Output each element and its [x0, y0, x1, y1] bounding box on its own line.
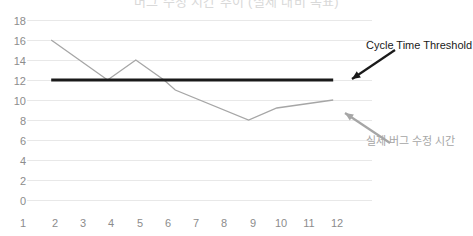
plot-area	[0, 0, 473, 236]
threshold-annotation-label: Cycle Time Threshold	[366, 39, 472, 52]
series-annotation-label: 실제 버그 수정 시간	[366, 135, 455, 148]
chart-container: 버그 수정 시간 추이 (실제 대비 목표) 18 16 14 12 10 8 …	[0, 0, 473, 236]
series-layer	[51, 40, 333, 120]
gridlines	[27, 20, 372, 200]
annotation-arrows	[345, 50, 395, 143]
